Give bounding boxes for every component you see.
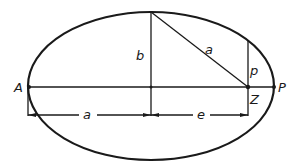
point-center <box>150 86 153 89</box>
point-a-aphelion <box>27 85 31 89</box>
label-latus-rectum-p: p <box>249 63 258 78</box>
arrowhead-left-end <box>28 113 36 117</box>
arrowhead-center-left <box>143 113 151 117</box>
label-dimension-e: e <box>197 107 205 122</box>
label-aphelion: A <box>13 80 23 95</box>
label-dimension-a: a <box>83 107 91 122</box>
hypotenuse-line <box>151 12 248 87</box>
arrowhead-center-right <box>151 113 159 117</box>
point-z-focus <box>246 85 250 89</box>
label-perihelion: P <box>278 80 286 95</box>
arrowhead-right-end <box>240 113 248 117</box>
label-hypotenuse-a: a <box>205 42 213 57</box>
ellipse-diagram: A P Z b a p a e <box>0 0 298 162</box>
point-p-perihelion <box>272 85 276 89</box>
label-focus: Z <box>249 92 260 107</box>
label-semi-minor-b: b <box>136 48 144 63</box>
